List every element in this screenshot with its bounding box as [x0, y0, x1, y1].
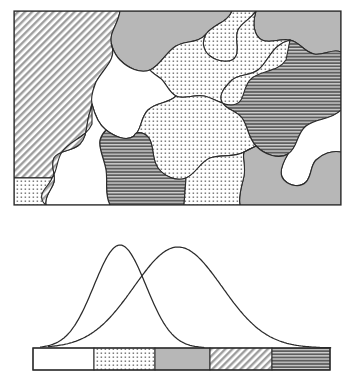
figure-svg — [0, 0, 355, 383]
class-bar-segment — [210, 348, 272, 370]
class-bar-segment — [94, 348, 155, 370]
class-bar — [33, 348, 330, 370]
figure-root — [0, 0, 355, 383]
class-bar-segment — [272, 348, 330, 370]
distribution-curve-2 — [48, 247, 331, 348]
distribution-plot-panel — [33, 245, 331, 370]
grain-layer — [14, 11, 341, 205]
distribution-curve-1 — [40, 245, 204, 348]
class-bar-segment — [33, 348, 94, 370]
microstructure-map-panel — [14, 11, 341, 205]
class-bar-segment — [155, 348, 210, 370]
